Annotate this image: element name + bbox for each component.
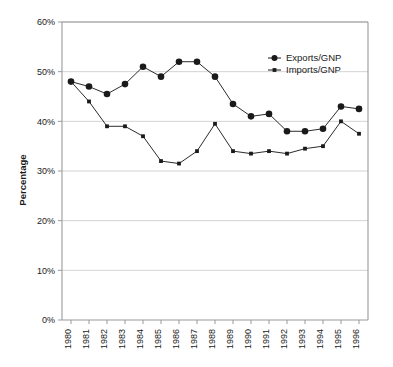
y-tick-label: 20% [37, 216, 55, 226]
data-point-marker [249, 152, 253, 156]
data-point-marker [194, 58, 201, 65]
data-point-marker [123, 124, 127, 128]
data-point-marker [338, 103, 345, 110]
data-point-marker [285, 152, 289, 156]
data-point-marker [339, 119, 343, 123]
data-point-marker [248, 113, 255, 120]
x-tick-label: 1988 [207, 329, 217, 349]
data-point-marker [177, 162, 181, 166]
x-tick-label: 1984 [135, 329, 145, 349]
y-tick-label: 30% [37, 166, 55, 176]
legend-marker [273, 68, 277, 72]
data-point-marker [320, 125, 327, 132]
data-point-marker [87, 100, 91, 104]
x-tick-label: 1992 [279, 329, 289, 349]
y-axis-title: Percentage [17, 154, 28, 205]
data-point-marker [195, 149, 199, 153]
data-point-marker [141, 134, 145, 138]
data-point-marker [122, 81, 129, 88]
x-tick-label: 1995 [333, 329, 343, 349]
legend-label-1: Exports/GNP [286, 52, 341, 63]
data-point-marker [267, 149, 271, 153]
data-point-marker [230, 101, 237, 108]
x-tick-label: 1983 [117, 329, 127, 349]
data-point-marker [105, 124, 109, 128]
x-tick-label: 1990 [243, 329, 253, 349]
data-point-marker [69, 80, 73, 84]
x-tick-label: 1989 [225, 329, 235, 349]
x-tick-label: 1980 [63, 329, 73, 349]
y-tick-label: 50% [37, 67, 55, 77]
x-tick-label: 1987 [189, 329, 199, 349]
data-point-marker [284, 128, 291, 135]
data-point-marker [140, 63, 147, 70]
chart-container: 0%10%20%30%40%50%60% 1980198119821983198… [0, 0, 393, 367]
data-point-marker [213, 122, 217, 126]
data-point-marker [357, 132, 361, 136]
data-point-marker [176, 58, 183, 65]
x-tick-label: 1994 [315, 329, 325, 349]
x-tick-label: 1993 [297, 329, 307, 349]
x-tick-label: 1985 [153, 329, 163, 349]
data-point-marker [356, 106, 363, 113]
x-axis-tick-labels-group: 1980198119821983198419851986198719881989… [63, 329, 361, 349]
data-point-marker [158, 73, 165, 80]
x-tick-label: 1991 [261, 329, 271, 349]
y-tick-label: 0% [42, 315, 55, 325]
y-axis-tick-labels-group: 0%10%20%30%40%50%60% [37, 17, 55, 325]
data-point-marker [321, 144, 325, 148]
line-chart: 0%10%20%30%40%50%60% 1980198119821983198… [0, 0, 393, 367]
data-point-marker [86, 83, 93, 90]
data-point-marker [266, 111, 273, 118]
data-point-marker [231, 149, 235, 153]
x-tick-label: 1986 [171, 329, 181, 349]
data-point-marker [212, 73, 219, 80]
data-point-marker [159, 159, 163, 163]
legend-marker [272, 55, 278, 61]
y-tick-label: 40% [37, 117, 55, 127]
data-point-marker [302, 128, 309, 135]
data-point-marker [303, 147, 307, 151]
data-point-marker [104, 91, 111, 98]
x-tick-label: 1982 [99, 329, 109, 349]
x-tick-label: 1996 [351, 329, 361, 349]
y-tick-label: 60% [37, 17, 55, 27]
y-tick-label: 10% [37, 266, 55, 276]
x-tick-label: 1981 [81, 329, 91, 349]
x-tick-marks-group [71, 320, 359, 324]
legend-label-2: Imports/GNP [286, 64, 341, 75]
